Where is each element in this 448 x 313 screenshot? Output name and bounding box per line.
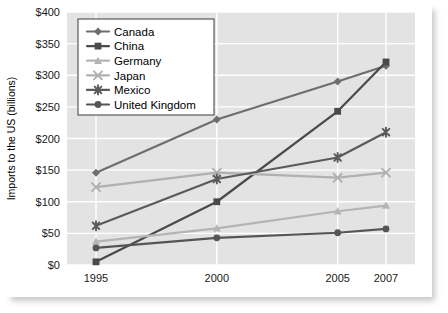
y-tick-label: $250: [36, 101, 60, 113]
marker-square: [334, 108, 341, 115]
data-point-marker: [383, 59, 390, 66]
x-tick-label: 1995: [84, 272, 108, 284]
legend-label: Canada: [114, 26, 155, 38]
chart-legend: CanadaChinaGermanyJapanMexicoUnited King…: [78, 19, 214, 115]
y-tick-label: $150: [36, 164, 60, 176]
y-tick-label: $400: [36, 6, 60, 18]
data-point-marker: [93, 245, 100, 252]
data-point-marker: [383, 226, 390, 233]
data-point-marker: [95, 43, 102, 50]
legend-label: China: [114, 40, 145, 52]
data-point-marker: [213, 198, 220, 205]
marker-square: [383, 59, 390, 66]
data-point-marker: [334, 229, 341, 236]
marker-square: [213, 198, 220, 205]
marker-circle: [334, 229, 341, 236]
y-tick-label: $300: [36, 69, 60, 81]
y-tick-label: $350: [36, 38, 60, 50]
marker-circle: [93, 245, 100, 252]
x-axis-ticks: 1995200020052007: [84, 272, 398, 284]
legend-label: Mexico: [114, 84, 150, 96]
legend-label: Japan: [114, 70, 145, 82]
marker-circle: [213, 234, 220, 241]
chart-figure: $0$50$100$150$200$250$300$350$4001995200…: [0, 0, 448, 313]
y-tick-label: $100: [36, 196, 60, 208]
x-tick-label: 2000: [205, 272, 229, 284]
data-point-marker: [334, 108, 341, 115]
y-tick-label: $0: [48, 259, 60, 271]
y-axis-ticks: $0$50$100$150$200$250$300$350$400: [36, 6, 60, 271]
x-tick-label: 2005: [325, 272, 349, 284]
legend-label: Germany: [114, 55, 162, 67]
data-point-marker: [95, 101, 102, 108]
data-point-marker: [93, 258, 100, 265]
x-tick-label: 2007: [374, 272, 398, 284]
y-tick-label: $50: [42, 227, 60, 239]
y-tick-label: $200: [36, 133, 60, 145]
marker-circle: [383, 226, 390, 233]
marker-square: [95, 43, 102, 50]
data-point-marker: [213, 234, 220, 241]
imports-line-chart: $0$50$100$150$200$250$300$350$4001995200…: [0, 0, 448, 313]
marker-square: [93, 258, 100, 265]
marker-circle: [95, 101, 102, 108]
y-axis-title: Imports to the US (billions): [5, 77, 17, 201]
legend-label: United Kingdom: [114, 99, 196, 111]
